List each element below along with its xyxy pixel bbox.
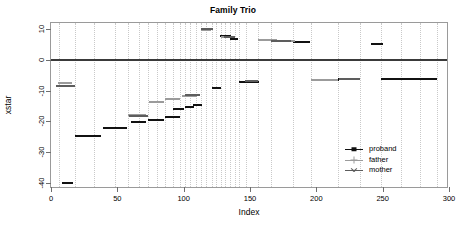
data-segment-proband bbox=[62, 182, 74, 184]
y-axis-tick bbox=[46, 121, 51, 122]
y-axis-tick-label: 0 bbox=[38, 58, 46, 62]
data-segment-proband bbox=[371, 43, 383, 45]
gridline-vertical bbox=[139, 23, 141, 187]
data-segment-proband bbox=[75, 135, 102, 137]
data-segment-proband bbox=[230, 38, 238, 40]
x-axis-tick-label: 0 bbox=[49, 195, 53, 203]
y-axis-tick-label: 10 bbox=[38, 25, 46, 33]
x-axis-tick bbox=[449, 187, 450, 192]
gridline-vertical bbox=[230, 23, 232, 187]
data-segment-mother bbox=[185, 94, 200, 96]
y-axis-tick bbox=[46, 152, 51, 153]
gridline-vertical bbox=[216, 23, 218, 187]
gridline-vertical bbox=[311, 23, 313, 187]
gridline-vertical bbox=[225, 23, 227, 187]
plot-panel: 100-10-20-30-40 050100150200250300 bbox=[50, 22, 448, 188]
data-segment-mother bbox=[224, 36, 236, 38]
data-segment-mother bbox=[339, 78, 360, 80]
gridline-vertical bbox=[293, 23, 295, 187]
data-segment-proband bbox=[148, 119, 164, 121]
x-axis-tick-label: 150 bbox=[244, 195, 257, 203]
legend-marker-plus-icon bbox=[351, 156, 358, 163]
data-segment-father bbox=[201, 29, 212, 31]
gridline-vertical bbox=[128, 23, 130, 187]
x-axis-tick bbox=[250, 187, 251, 192]
y-axis-tick-label: -20 bbox=[38, 116, 46, 127]
gridline-vertical bbox=[206, 23, 208, 187]
gridline-vertical bbox=[437, 23, 439, 187]
legend-label: father bbox=[369, 155, 388, 166]
data-segment-proband bbox=[293, 41, 310, 43]
data-segment-father bbox=[311, 79, 338, 81]
data-segment-father bbox=[149, 101, 164, 103]
data-segment-proband bbox=[173, 108, 184, 110]
gridline-vertical bbox=[239, 23, 241, 187]
gridline-vertical bbox=[401, 23, 403, 187]
data-segment-proband bbox=[165, 116, 180, 118]
legend-marker-cross-icon bbox=[351, 168, 358, 173]
gridline-vertical bbox=[246, 23, 248, 187]
gridline-vertical bbox=[148, 23, 150, 187]
gridline-vertical bbox=[212, 23, 214, 187]
y-axis-tick-label: -40 bbox=[38, 177, 46, 188]
gridline-vertical bbox=[94, 23, 96, 187]
gridline-vertical bbox=[165, 23, 167, 187]
data-segment-proband bbox=[381, 78, 437, 80]
y-axis-tick bbox=[46, 183, 51, 184]
gridline-vertical bbox=[173, 23, 175, 187]
gridline-vertical bbox=[271, 23, 273, 187]
gridline-vertical bbox=[235, 23, 237, 187]
gridline-vertical bbox=[75, 23, 77, 187]
legend-label: proband bbox=[369, 144, 397, 155]
x-axis-label: Index bbox=[50, 207, 448, 217]
data-segment-proband bbox=[185, 106, 194, 108]
data-segment-proband bbox=[212, 87, 221, 89]
gridline-vertical bbox=[115, 23, 117, 187]
gridline-vertical bbox=[221, 23, 223, 187]
zero-line bbox=[51, 59, 447, 61]
gridline-vertical bbox=[180, 23, 182, 187]
x-axis-tick bbox=[184, 187, 185, 192]
x-axis-tick-label: 100 bbox=[177, 195, 190, 203]
gridline-vertical bbox=[157, 23, 159, 187]
x-axis-tick bbox=[117, 187, 118, 192]
y-axis-tick bbox=[46, 29, 51, 30]
x-axis-tick bbox=[316, 187, 317, 192]
data-segment-mother bbox=[129, 115, 148, 117]
gridline-vertical bbox=[258, 23, 260, 187]
data-segment-proband bbox=[193, 104, 202, 106]
legend-marker-square-icon bbox=[352, 148, 357, 152]
x-axis-tick-label: 250 bbox=[376, 195, 389, 203]
data-segment-proband bbox=[103, 127, 127, 129]
gridline-vertical bbox=[338, 23, 340, 187]
data-segment-proband bbox=[131, 121, 147, 123]
data-segment-father bbox=[165, 98, 180, 100]
data-segment-mother bbox=[245, 80, 258, 82]
gridline-vertical bbox=[59, 23, 61, 187]
x-axis-tick-label: 200 bbox=[310, 195, 323, 203]
chart-title: Family Trio bbox=[0, 5, 466, 15]
y-axis-tick-label: -10 bbox=[38, 85, 46, 96]
y-axis-tick bbox=[46, 60, 51, 61]
gridline-vertical bbox=[420, 23, 422, 187]
x-axis-tick bbox=[51, 187, 52, 192]
x-axis-tick-label: 300 bbox=[443, 195, 456, 203]
legend-label: mother bbox=[369, 165, 392, 176]
chart-root: Family Trio 100-10-20-30-40 050100150200… bbox=[0, 0, 466, 227]
x-axis-tick bbox=[383, 187, 384, 192]
data-segment-mother bbox=[201, 28, 213, 30]
x-axis-tick-label: 50 bbox=[113, 195, 121, 203]
data-segment-mother bbox=[56, 85, 75, 87]
y-axis-tick bbox=[46, 91, 51, 92]
gridline-vertical bbox=[360, 23, 362, 187]
data-segment-father bbox=[58, 82, 73, 84]
y-axis-tick-label: -30 bbox=[38, 147, 46, 158]
data-segment-mother bbox=[271, 40, 291, 42]
y-axis-label: xstar bbox=[3, 96, 13, 114]
